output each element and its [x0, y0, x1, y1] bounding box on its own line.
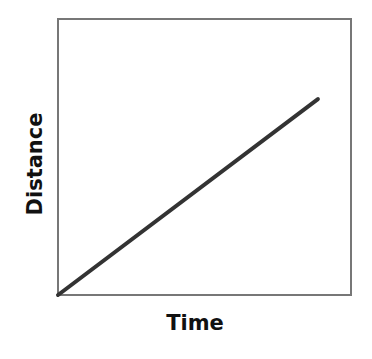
- data-line: [58, 99, 318, 295]
- y-axis-label: Distance: [23, 113, 47, 216]
- x-axis-label: Time: [166, 311, 224, 335]
- plot-frame: [58, 19, 351, 295]
- distance-time-chart: Time Distance: [0, 0, 372, 359]
